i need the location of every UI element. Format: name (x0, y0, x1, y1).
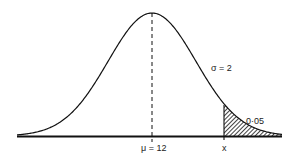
sigma-label: σ = 2 (211, 64, 232, 73)
normal-curve-diagram (0, 0, 297, 159)
x-marker-label: x (222, 144, 227, 153)
tail-area-label: 0·05 (246, 117, 264, 126)
mean-label: μ = 12 (141, 144, 166, 153)
bell-curve (17, 13, 282, 135)
